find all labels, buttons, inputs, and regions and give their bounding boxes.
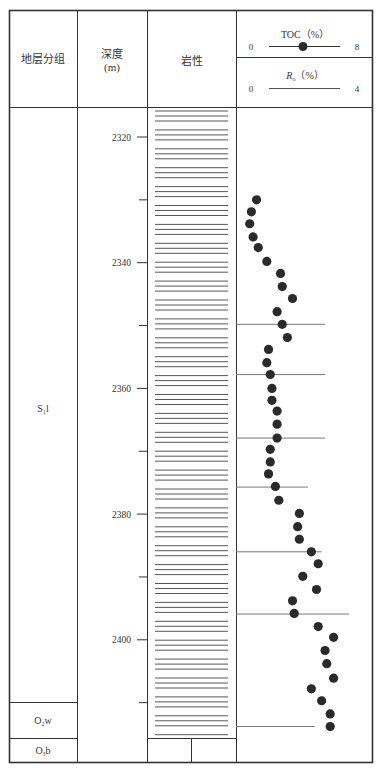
toc-data-point-icon: [262, 358, 271, 367]
toc-data-point-icon: [245, 219, 254, 228]
toc-data-point-icon: [317, 696, 326, 705]
toc-data-point-icon: [274, 496, 283, 505]
toc-data-point-icon: [326, 709, 335, 718]
depth-header: 深度: [101, 47, 123, 60]
toc-data-point-icon: [266, 370, 275, 379]
toc-data-point-icon: [307, 547, 316, 556]
lithology-shale-pattern: [155, 111, 228, 735]
toc-data-point-icon: [267, 396, 276, 405]
depth-tick-label: 2340: [112, 258, 131, 268]
toc-data-point-icon: [264, 345, 273, 354]
toc-data-point-icon: [314, 559, 323, 568]
formation-o2w: O2w: [34, 715, 52, 727]
toc-data-point-icon: [271, 482, 280, 491]
formation-o3b: O3b: [35, 745, 50, 757]
toc-data-point-icon: [273, 307, 282, 316]
toc-legend: TOC（%） 0 8: [249, 29, 360, 52]
toc-data-point-icon: [273, 420, 282, 429]
toc-data-point-icon: [273, 433, 282, 442]
toc-data-point-icon: [267, 384, 276, 393]
formation-s1l: S1l: [37, 403, 49, 415]
ro-max: 4: [355, 84, 360, 94]
toc-max: 8: [355, 42, 360, 52]
toc-data-point-icon: [329, 633, 338, 642]
depth-unit: (m): [104, 61, 120, 74]
formation-labels: S1l O2w O3b: [34, 403, 52, 757]
table-frame: [9, 10, 373, 763]
toc-data-point-icon: [266, 457, 275, 466]
depth-tick-label: 2380: [112, 510, 131, 520]
ro-label: Ro（%）: [285, 70, 323, 82]
toc-data-point-icon: [322, 659, 331, 668]
toc-data-point-icon: [314, 622, 323, 631]
ro-legend: Ro（%） 0 4: [249, 70, 360, 94]
toc-data-point-icon: [293, 522, 302, 531]
toc-data-point-icon: [276, 269, 285, 278]
toc-data-point-icon: [298, 572, 307, 581]
depth-tick-label: 2360: [112, 384, 131, 394]
ro-min: 0: [249, 84, 254, 94]
toc-label: TOC（%）: [281, 29, 329, 40]
depth-axis: 23202340236023802400: [112, 133, 147, 703]
ro-series: [236, 324, 349, 726]
toc-data-point-icon: [320, 646, 329, 655]
well-log-diagram: 地层分组 深度 (m) 岩性 TOC（%） 0 8 Ro（%） 0 4 S1l …: [0, 0, 380, 774]
depth-tick-label: 2320: [112, 133, 131, 143]
toc-data-point-icon: [252, 195, 261, 204]
toc-data-point-icon: [307, 684, 316, 693]
toc-legend-dot-icon: [299, 42, 308, 51]
toc-min: 0: [249, 42, 254, 52]
toc-data-point-icon: [249, 232, 258, 241]
depth-tick-label: 2400: [112, 635, 131, 645]
toc-data-point-icon: [329, 674, 338, 683]
toc-data-point-icon: [278, 282, 287, 291]
toc-data-point-icon: [262, 257, 271, 266]
toc-data-point-icon: [290, 609, 299, 618]
toc-data-point-icon: [283, 333, 292, 342]
toc-data-point-icon: [288, 596, 297, 605]
toc-data-point-icon: [266, 445, 275, 454]
toc-data-point-icon: [264, 469, 273, 478]
toc-data-point-icon: [247, 207, 256, 216]
toc-series: [245, 195, 338, 731]
toc-data-point-icon: [278, 320, 287, 329]
toc-data-point-icon: [254, 243, 263, 252]
toc-data-point-icon: [295, 509, 304, 518]
toc-data-point-icon: [288, 294, 297, 303]
toc-data-point-icon: [312, 585, 321, 594]
toc-data-point-icon: [273, 406, 282, 415]
toc-data-point-icon: [326, 722, 335, 731]
stratigraphy-header: 地层分组: [21, 52, 65, 65]
lithology-header: 岩性: [181, 54, 203, 67]
toc-data-point-icon: [295, 535, 304, 544]
